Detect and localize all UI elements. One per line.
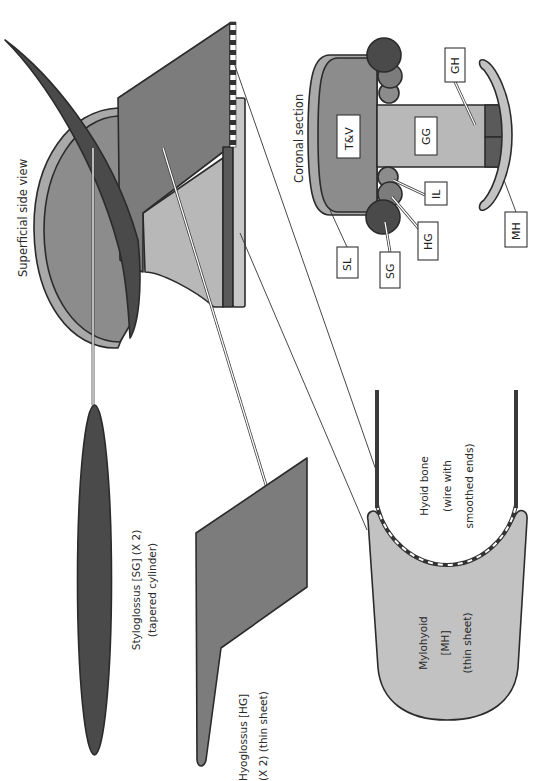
mylohyoid-label-line1: Mylohyoid — [417, 616, 429, 670]
svg-text:GG: GG — [420, 128, 433, 145]
side-view-title: Superficial side view — [16, 159, 30, 277]
coronal-title: Coronal section — [292, 94, 306, 183]
coronal-gg-bar — [377, 105, 503, 167]
coronal-circle-large-top — [367, 38, 401, 72]
side-hyoid-strip — [230, 22, 236, 147]
svg-text:GH: GH — [449, 57, 462, 74]
tongue-muscle-diagram: Superficial side view Coronal section — [0, 0, 538, 781]
styloglossus-label-line1: Styloglossus [SG] (X 2) — [130, 530, 142, 650]
label-gh: GH — [445, 48, 465, 82]
hyoglossus-label-line2: (X 2) (thin sheet) — [257, 691, 269, 781]
label-hg: HG — [418, 222, 438, 260]
hyoglossus-component: Hyoglossus [HG] (X 2) (thin sheet) — [196, 458, 307, 781]
svg-text:HG: HG — [422, 233, 435, 250]
hyoid-label-line1: Hyoid bone — [418, 456, 430, 516]
label-gg: GG — [415, 117, 437, 155]
styloglossus-component: Styloglossus [SG] (X 2) (tapered cylinde… — [78, 405, 159, 755]
hyoid-label-line2: (wire with — [441, 460, 453, 512]
coronal-section: Coronal section — [292, 38, 527, 288]
svg-text:IL: IL — [430, 189, 443, 199]
svg-text:SL: SL — [341, 257, 354, 271]
hyoid-label-line3: smoothed ends) — [463, 443, 475, 528]
side-dark-bar — [223, 147, 233, 307]
label-sg: SG — [380, 252, 400, 288]
mylohyoid-label-line3: (thin sheet) — [461, 612, 473, 673]
svg-text:SG: SG — [384, 263, 397, 279]
mylohyoid-shape — [368, 511, 527, 720]
styloglossus-label-line2: (tapered cylinder) — [146, 543, 158, 637]
mylohyoid-hyoid-component: Hyoid bone (wire with smoothed ends) Myl… — [368, 390, 527, 720]
mylohyoid-label-line2: [MH] — [439, 630, 451, 655]
label-mh: MH — [505, 212, 527, 247]
svg-text:MH: MH — [510, 222, 523, 240]
hyoid-wire-left — [375, 390, 379, 508]
label-sl: SL — [337, 247, 358, 278]
hyoglossus-shape — [196, 458, 307, 766]
styloglossus-shape — [78, 405, 112, 755]
hyoglossus-label-line1: Hyoglossus [HG] — [237, 694, 249, 781]
hyoid-wire-right — [514, 390, 518, 508]
label-il: IL — [425, 182, 447, 205]
label-tv: T&V — [337, 115, 360, 158]
svg-text:T&V: T&V — [343, 127, 356, 151]
coronal-circle-large-bottom — [366, 200, 400, 234]
